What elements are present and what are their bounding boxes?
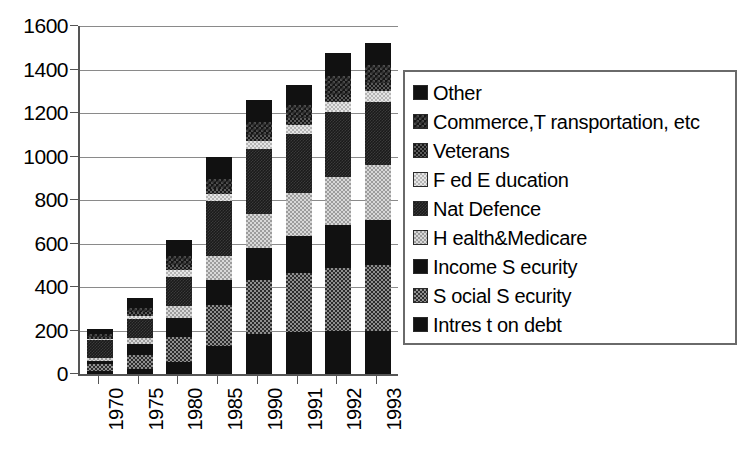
legend-item: Income S ecurity <box>413 252 735 281</box>
bar-segment <box>127 319 153 338</box>
bar-segment <box>87 340 113 358</box>
bar-1975 <box>127 298 153 374</box>
plot-area <box>78 26 398 374</box>
y-axis-tick-label: 0 <box>4 363 68 384</box>
x-axis-label-1990: 1990 <box>265 388 285 459</box>
bar-segment <box>286 125 312 134</box>
y-axis-tick-label: 1600 <box>4 15 68 36</box>
legend-label: F ed E ducation <box>433 170 569 190</box>
legend-label: Other <box>433 83 482 103</box>
legend-label: H ealth&Medicare <box>433 228 587 248</box>
legend-item: Other <box>413 78 735 107</box>
legend-swatch-icon <box>413 85 428 100</box>
bar-1993 <box>365 43 391 374</box>
x-axis-label-1970: 1970 <box>106 388 126 459</box>
bar-1991 <box>286 85 312 374</box>
y-axis-tick <box>70 25 78 26</box>
y-axis-tick <box>70 243 78 244</box>
bar-segment <box>325 95 351 102</box>
bar-segment <box>166 337 192 363</box>
bar-segment <box>286 193 312 235</box>
legend-label: Intres t on debt <box>433 315 562 335</box>
x-axis-tick <box>217 376 218 384</box>
y-axis-tick-label: 800 <box>4 189 68 210</box>
x-axis-tick <box>376 376 377 384</box>
bar-segment <box>325 225 351 268</box>
bar-segment <box>286 273 312 332</box>
x-axis-label-1993: 1993 <box>384 388 404 459</box>
x-axis-tick <box>257 376 258 384</box>
bar-segment <box>325 177 351 225</box>
legend-item: Nat Defence <box>413 194 735 223</box>
bar-segment <box>246 122 272 134</box>
bar-segment <box>286 105 312 118</box>
bar-segment <box>286 85 312 105</box>
legend-label: Veterans <box>433 141 510 161</box>
bar-segment <box>166 362 192 374</box>
bar-segment <box>206 305 232 346</box>
bar-segment <box>166 256 192 265</box>
bar-segment <box>246 214 272 248</box>
legend-label: Income S ecurity <box>433 257 577 277</box>
x-axis-label-1992: 1992 <box>344 388 364 459</box>
bar-segment <box>206 256 232 281</box>
bar-segment <box>166 240 192 256</box>
x-axis-label-1991: 1991 <box>305 388 325 459</box>
bar-segment <box>286 134 312 193</box>
bar-segment <box>325 268 351 330</box>
legend-swatch-icon <box>413 230 428 245</box>
bar-segment <box>246 334 272 374</box>
bar-segment <box>365 43 391 65</box>
bar-segment <box>127 344 153 355</box>
bar-segment <box>206 346 232 374</box>
legend-label: S ocial S ecurity <box>433 286 571 306</box>
bar-segment <box>365 83 391 91</box>
bar-segment <box>246 248 272 280</box>
bar-segment <box>365 331 391 374</box>
legend-item: F ed E ducation <box>413 165 735 194</box>
y-axis-tick-label: 1000 <box>4 146 68 167</box>
y-axis-tick <box>70 286 78 287</box>
bar-segment <box>325 331 351 374</box>
bar-segment <box>166 318 192 337</box>
bar-segment <box>127 355 153 369</box>
y-axis: 02004006008001000120014001600 <box>0 0 68 459</box>
bar-1980 <box>166 240 192 374</box>
x-axis-tick <box>336 376 337 384</box>
x-axis-tick <box>177 376 178 384</box>
legend-label: Commerce,T ransportation, etc <box>433 112 700 132</box>
legend-item: S ocial S ecurity <box>413 281 735 310</box>
x-axis-label-1985: 1985 <box>225 388 245 459</box>
x-axis-label-1980: 1980 <box>185 388 205 459</box>
bar-segment <box>127 298 153 307</box>
legend-swatch-icon <box>413 317 428 332</box>
bar-segment <box>286 118 312 125</box>
y-axis-tick <box>70 199 78 200</box>
bar-segment <box>246 280 272 334</box>
bar-1985 <box>206 157 232 374</box>
bar-segment <box>365 165 391 220</box>
bar-segment <box>166 277 192 306</box>
y-axis-tick <box>70 156 78 157</box>
y-axis-tick-label: 600 <box>4 233 68 254</box>
bar-segment <box>365 220 391 265</box>
legend-swatch-icon <box>413 259 428 274</box>
bar-1990 <box>246 100 272 374</box>
y-axis-tick-label: 400 <box>4 276 68 297</box>
x-axis-line <box>78 374 398 376</box>
legend-swatch-icon <box>413 201 428 216</box>
bar-segment <box>325 102 351 112</box>
bar-segment <box>166 270 192 277</box>
bar-segment <box>206 179 232 189</box>
y-axis-tick-label: 1400 <box>4 59 68 80</box>
bar-segment <box>206 280 232 305</box>
y-axis-tick <box>70 373 78 374</box>
y-axis-tick <box>70 112 78 113</box>
legend-swatch-icon <box>413 288 428 303</box>
bar-segment <box>325 76 351 95</box>
legend-item: Commerce,T ransportation, etc <box>413 107 735 136</box>
y-axis-tick <box>70 330 78 331</box>
bar-segment <box>286 236 312 273</box>
legend-swatch-icon <box>413 143 428 158</box>
bar-segment <box>365 65 391 83</box>
